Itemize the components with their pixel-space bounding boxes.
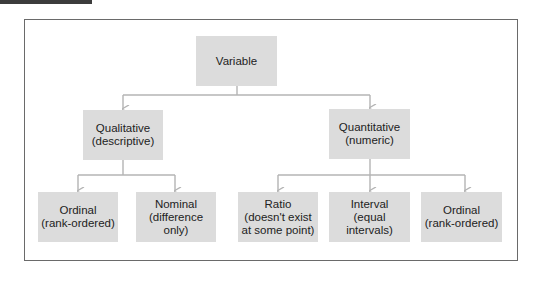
node-ordinal-quantitative: Ordinal (rank-ordered) xyxy=(421,192,502,242)
node-ordinal-qualitative: Ordinal (rank-ordered) xyxy=(38,192,118,242)
node-variable: Variable xyxy=(196,36,277,86)
node-nominal: Nominal (difference only) xyxy=(136,192,216,242)
node-interval: Interval (equal intervals) xyxy=(329,192,410,242)
node-quantitative: Quantitative (numeric) xyxy=(329,109,410,159)
node-ratio: Ratio (doesn't exist at some point) xyxy=(238,192,318,242)
node-qualitative: Qualitative (descriptive) xyxy=(83,110,163,160)
